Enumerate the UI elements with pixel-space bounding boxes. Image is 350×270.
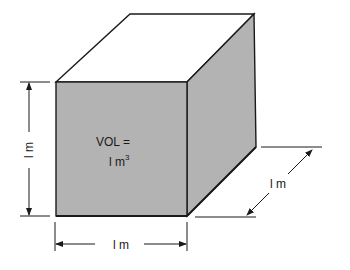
depth-dimension-label: l m	[270, 177, 286, 191]
cube-diagram: VOL = l m3 l m l m l m	[0, 0, 350, 270]
volume-exponent: 3	[125, 153, 130, 162]
width-dimension: l m	[55, 222, 187, 252]
height-dimension-label: l m	[22, 142, 36, 158]
volume-label-line1: VOL =	[96, 135, 130, 149]
width-dimension-label: l m	[113, 238, 129, 252]
volume-unit: l m	[109, 155, 125, 169]
height-dimension: l m	[20, 82, 50, 216]
cube-front-face	[56, 82, 187, 216]
